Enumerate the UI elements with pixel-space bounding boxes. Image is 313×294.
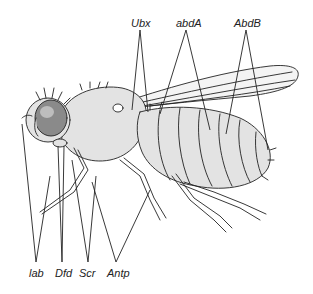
hox-gene-fly-diagram: Ubx abdA AbdB lab Dfd Scr Antp	[0, 0, 313, 294]
label-dfd: Dfd	[55, 267, 72, 279]
label-abdb: AbdB	[234, 17, 261, 29]
abdomen	[137, 107, 270, 188]
label-lab: lab	[29, 267, 44, 279]
label-abda: abdA	[176, 17, 202, 29]
label-ubx: Ubx	[131, 17, 151, 29]
compound-eye	[35, 100, 67, 136]
fly-illustration	[0, 0, 313, 294]
label-scr: Scr	[79, 267, 96, 279]
label-antp: Antp	[107, 267, 130, 279]
